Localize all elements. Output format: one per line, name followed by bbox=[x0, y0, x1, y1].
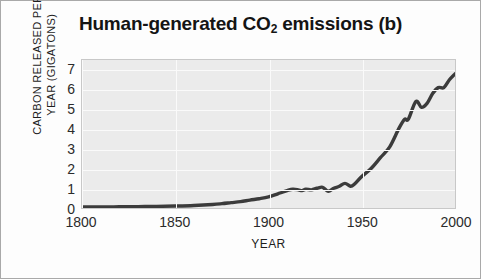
y-axis-title-line2: YEAR (GIGATONS) bbox=[45, 14, 57, 116]
gridline-horizontal bbox=[82, 150, 455, 151]
x-axis-tick-label: 1950 bbox=[347, 214, 378, 230]
y-axis-tick-labels: 76543210 bbox=[57, 59, 75, 209]
gridline-horizontal bbox=[82, 170, 455, 171]
x-axis-tick-label: 2000 bbox=[440, 214, 471, 230]
chart-title-main: Human-generated CO bbox=[79, 13, 271, 34]
gridline-vertical bbox=[270, 60, 271, 208]
x-axis-title: YEAR bbox=[81, 237, 456, 251]
gridline-vertical bbox=[82, 60, 83, 208]
gridline-horizontal bbox=[82, 110, 455, 111]
chart-title-tail: emissions (b) bbox=[277, 13, 402, 34]
y-axis-tick-label: 5 bbox=[59, 102, 75, 116]
chart-title-subscript: 2 bbox=[271, 22, 277, 36]
gridline-vertical bbox=[363, 60, 364, 208]
gridline-horizontal bbox=[82, 70, 455, 71]
plot-wrapper bbox=[81, 59, 456, 209]
x-axis-tick-label: 1850 bbox=[159, 214, 190, 230]
chart-title: Human-generated CO2 emissions (b) bbox=[1, 13, 480, 35]
gridline-vertical bbox=[176, 60, 177, 208]
gridline-horizontal bbox=[82, 130, 455, 131]
y-axis-tick-label: 1 bbox=[59, 182, 75, 196]
y-axis-tick-label: 7 bbox=[59, 62, 75, 76]
y-axis-title: CARBON RELEASED PER YEAR (GIGATONS) bbox=[31, 0, 59, 145]
figure-container: Human-generated CO2 emissions (b) 765432… bbox=[0, 0, 481, 279]
y-axis-tick-label: 4 bbox=[59, 122, 75, 136]
x-axis-tick-label: 1800 bbox=[65, 214, 96, 230]
y-axis-title-line1: CARBON RELEASED PER bbox=[31, 0, 43, 135]
x-axis-tick-labels: 18001850190019502000 bbox=[81, 214, 456, 234]
emissions-line-series bbox=[82, 60, 455, 208]
y-axis-tick-label: 2 bbox=[59, 162, 75, 176]
gridline-horizontal bbox=[82, 190, 455, 191]
y-axis-tick-label: 6 bbox=[59, 82, 75, 96]
y-axis-tick-label: 3 bbox=[59, 142, 75, 156]
emissions-curve-path bbox=[82, 74, 455, 207]
gridline-horizontal bbox=[82, 90, 455, 91]
plot-area bbox=[81, 59, 456, 209]
x-axis-tick-label: 1900 bbox=[253, 214, 284, 230]
